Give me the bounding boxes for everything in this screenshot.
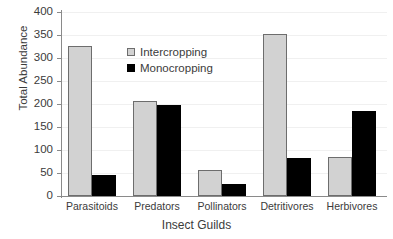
y-tick-label: 0 (13, 190, 53, 202)
bar-parasitoids-intercropping (68, 46, 92, 196)
x-tick-label-parasitoids: Parasitoids (58, 200, 126, 212)
y-tick-mark (57, 35, 61, 36)
gridline (62, 104, 387, 105)
bar-predators-intercropping (133, 101, 157, 196)
bar-herbivores-monocropping (352, 111, 376, 196)
gridline (62, 58, 387, 59)
x-tick-label-herbivores: Herbivores (318, 200, 386, 212)
gridline (62, 12, 387, 13)
y-tick-label: 250 (13, 75, 53, 87)
y-tick-mark (57, 196, 61, 197)
bar-chart: Total Abundance 050100150200250300350400… (0, 0, 393, 239)
gridline (62, 35, 387, 36)
y-tick-mark (57, 81, 61, 82)
legend-item-intercropping: Intercropping (127, 44, 213, 59)
y-tick-label: 400 (13, 6, 53, 18)
bar-parasitoids-monocropping (92, 175, 116, 196)
bar-pollinators-intercropping (198, 170, 222, 196)
x-axis-line (61, 196, 387, 197)
y-tick-mark (57, 58, 61, 59)
bar-predators-monocropping (157, 105, 181, 196)
y-tick-mark (57, 173, 61, 174)
bar-pollinators-monocropping (222, 184, 246, 196)
gridline (62, 127, 387, 128)
y-tick-label: 50 (13, 167, 53, 179)
legend: IntercroppingMonocropping (127, 44, 213, 76)
y-tick-mark (57, 12, 61, 13)
plot-area (62, 12, 387, 196)
legend-label: Intercropping (140, 46, 207, 58)
legend-swatch-icon (127, 64, 135, 72)
bar-detritivores-monocropping (287, 158, 311, 196)
x-axis-title: Insect Guilds (0, 218, 393, 232)
gridline (62, 150, 387, 151)
y-tick-mark (57, 150, 61, 151)
x-tick-label-detritivores: Detritivores (253, 200, 321, 212)
y-tick-label: 100 (13, 144, 53, 156)
y-tick-label: 150 (13, 121, 53, 133)
y-tick-label: 300 (13, 52, 53, 64)
y-tick-mark (57, 104, 61, 105)
bar-herbivores-intercropping (328, 157, 352, 196)
legend-swatch-icon (127, 48, 135, 56)
y-tick-label: 200 (13, 98, 53, 110)
x-tick-label-predators: Predators (123, 200, 191, 212)
x-tick-label-pollinators: Pollinators (188, 200, 256, 212)
y-tick-label: 350 (13, 29, 53, 41)
legend-item-monocropping: Monocropping (127, 60, 213, 75)
legend-label: Monocropping (140, 62, 213, 74)
gridline (62, 81, 387, 82)
bar-detritivores-intercropping (263, 34, 287, 196)
y-tick-mark (57, 127, 61, 128)
